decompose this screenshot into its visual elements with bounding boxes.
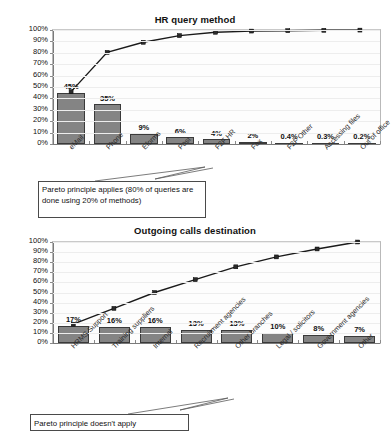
y-tick-mark [50, 64, 53, 65]
y-tick-mark [50, 76, 53, 77]
y-tick-mark [50, 121, 53, 122]
gridline [53, 41, 380, 42]
gridline [53, 110, 380, 111]
y-tick-mark [50, 323, 53, 324]
y-tick-label: 50% [33, 82, 48, 90]
y-axis-tick-labels: 100%90%80%70%60%50%40%30%20%10%0% [2, 29, 48, 145]
gridline [53, 87, 380, 88]
y-tick-label: 60% [33, 71, 48, 79]
gridline [53, 272, 380, 273]
y-tick-label: 80% [33, 48, 48, 56]
y-tick-mark [50, 313, 53, 314]
gridline [53, 282, 380, 283]
y-tick-label: 90% [33, 37, 48, 45]
y-tick-label: 20% [33, 116, 48, 124]
cumulative-line-marker [69, 90, 73, 94]
gridline [53, 98, 380, 99]
y-tick-label: 30% [33, 308, 48, 316]
y-tick-label: 70% [33, 268, 48, 276]
annotation-callout: Pareto principle doesn't apply [30, 414, 189, 431]
gridline [53, 64, 380, 65]
x-tick-mark [380, 340, 381, 343]
chart-title: Outgoing calls destination [0, 225, 390, 236]
x-tick-mark [380, 141, 381, 144]
y-tick-mark [50, 333, 53, 334]
y-tick-mark [50, 303, 53, 304]
annotation-callout: Pareto principle applies (80% of queries… [38, 181, 206, 218]
cumulative-line-marker [193, 278, 197, 282]
chart-title: HR query method [0, 14, 390, 25]
cumulative-line-marker [234, 265, 238, 269]
y-tick-label: 100% [29, 25, 48, 33]
y-tick-label: 10% [33, 128, 48, 136]
plot-area: 45%35%9%6%4%2%0.4%0.3%0.2% [52, 29, 381, 145]
y-tick-mark [50, 87, 53, 88]
cumulative-line-path [71, 30, 360, 92]
y-tick-label: 20% [33, 318, 48, 326]
y-tick-mark [50, 282, 53, 283]
y-axis-tick-labels: 100%90%80%70%60%50%40%30%20%10%0% [2, 241, 48, 344]
callout-leader-line [128, 396, 238, 416]
gridline [53, 262, 380, 263]
cumulative-line-marker [315, 247, 319, 251]
y-tick-mark [50, 110, 53, 111]
gridline [53, 53, 380, 54]
y-tick-mark [50, 30, 53, 31]
gridline [53, 293, 380, 294]
y-tick-mark [50, 272, 53, 273]
cumulative-line-marker [177, 34, 181, 38]
y-tick-mark [50, 293, 53, 294]
y-tick-mark [50, 262, 53, 263]
y-tick-label: 50% [33, 288, 48, 296]
gridline [53, 121, 380, 122]
y-tick-label: 60% [33, 278, 48, 286]
y-tick-label: 30% [33, 105, 48, 113]
y-tick-label: 100% [29, 237, 48, 245]
cumulative-line-marker [274, 255, 278, 259]
y-tick-label: 90% [33, 247, 48, 255]
y-tick-label: 10% [33, 328, 48, 336]
pareto-chart-hr-query-method: HR query method 100%90%80%70%60%50%40%30… [0, 0, 390, 224]
gridline [53, 303, 380, 304]
y-tick-label: 40% [33, 298, 48, 306]
gridline [53, 133, 380, 134]
y-tick-label: 80% [33, 257, 48, 265]
gridline [53, 76, 380, 77]
y-tick-mark [50, 98, 53, 99]
gridline [53, 252, 380, 253]
gridline [53, 30, 380, 31]
y-tick-mark [50, 242, 53, 243]
y-tick-mark [50, 53, 53, 54]
y-tick-mark [50, 41, 53, 42]
y-tick-label: 70% [33, 59, 48, 67]
cumulative-line-marker [112, 306, 116, 310]
gridline [53, 242, 380, 243]
y-tick-mark [50, 133, 53, 134]
y-tick-mark [50, 252, 53, 253]
y-tick-label: 40% [33, 94, 48, 102]
